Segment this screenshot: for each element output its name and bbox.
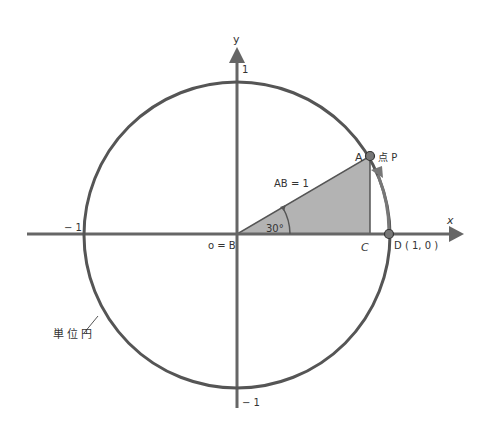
point-c-label: C [361, 241, 369, 254]
unit-circle-diagram: y x 1 − 1 − 1 o = B A 点 P C D ( 1, 0 ) A… [0, 0, 486, 428]
point-a-marker [366, 152, 375, 161]
y-tick-negative: − 1 [242, 397, 260, 408]
y-axis-arrow-icon [229, 47, 245, 63]
x-axis-label: x [446, 214, 454, 227]
hypotenuse-label: AB = 1 [274, 178, 309, 189]
x-axis-arrow-icon [449, 226, 464, 242]
point-a-label: A [355, 151, 363, 164]
rotation-arc [371, 166, 389, 232]
angle-label: 30° [266, 223, 284, 234]
point-p-label: 点 P [378, 152, 397, 163]
unit-circle-label: 単位円 [53, 327, 95, 341]
y-axis-label: y [233, 33, 240, 46]
origin-label: o = B [208, 240, 236, 251]
y-tick-positive: 1 [242, 64, 248, 75]
point-d-marker [385, 230, 394, 239]
y-axis [229, 47, 245, 408]
x-tick-negative: − 1 [64, 222, 82, 233]
point-d-label: D ( 1, 0 ) [394, 240, 438, 251]
triangle-abc [237, 156, 370, 234]
